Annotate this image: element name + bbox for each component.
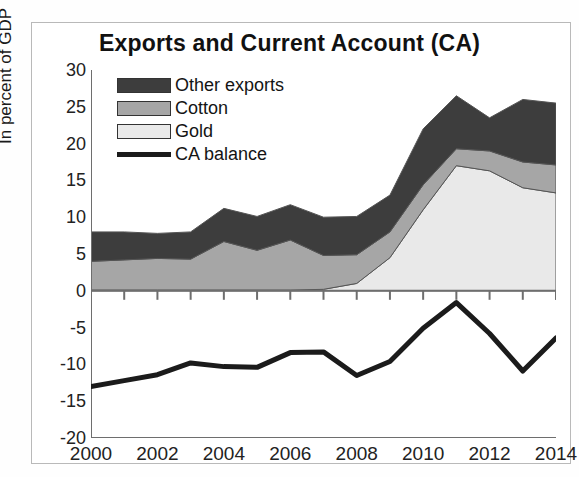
- y-tick-label: 20: [40, 135, 86, 153]
- x-tick-label: 2006: [260, 444, 320, 463]
- chart-title: Exports and Current Account (CA): [0, 30, 579, 57]
- x-tick-label: 2000: [61, 444, 121, 463]
- ca-balance-line: [91, 303, 556, 387]
- y-tick-label: -15: [40, 392, 86, 410]
- y-axis-tick-labels: 302520151050-5-10-15-20: [30, 70, 86, 438]
- legend-item-ca-balance[interactable]: CA balance: [117, 143, 347, 165]
- legend-item-label: Cotton: [175, 98, 228, 119]
- chart-legend: Other exportsCottonGoldCA balance: [117, 74, 347, 166]
- x-tick-label: 2002: [127, 444, 187, 463]
- legend-line-swatch: [117, 152, 171, 157]
- legend-item-label: Other exports: [175, 75, 284, 96]
- legend-item-other-exports[interactable]: Other exports: [117, 74, 347, 96]
- y-tick-label: 15: [40, 171, 86, 189]
- legend-item-label: CA balance: [175, 144, 267, 165]
- y-tick-label: 0: [40, 282, 86, 300]
- legend-item-gold[interactable]: Gold: [117, 120, 347, 142]
- y-tick-label: 25: [40, 98, 86, 116]
- y-axis-label: In percent of GDP: [0, 0, 16, 144]
- legend-color-swatch: [117, 124, 171, 139]
- y-tick-label: -5: [40, 319, 86, 337]
- x-tick-label: 2010: [393, 444, 453, 463]
- x-tick-label: 2014: [526, 444, 579, 463]
- legend-color-swatch: [117, 78, 171, 93]
- y-tick-label: 10: [40, 208, 86, 226]
- x-tick-label: 2012: [460, 444, 520, 463]
- legend-item-label: Gold: [175, 121, 213, 142]
- y-tick-label: 5: [40, 245, 86, 263]
- y-axis-label-text: In percent of GDP: [0, 0, 16, 144]
- legend-color-swatch: [117, 101, 171, 116]
- x-axis-tick-labels: 20002002200420062008201020122014: [91, 444, 556, 470]
- y-tick-label: 30: [40, 61, 86, 79]
- x-tick-label: 2004: [194, 444, 254, 463]
- x-tick-label: 2008: [327, 444, 387, 463]
- ca-balance-path: [91, 303, 556, 387]
- chart-figure: Exports and Current Account (CA) In perc…: [0, 0, 579, 477]
- legend-item-cotton[interactable]: Cotton: [117, 97, 347, 119]
- y-tick-label: -10: [40, 355, 86, 373]
